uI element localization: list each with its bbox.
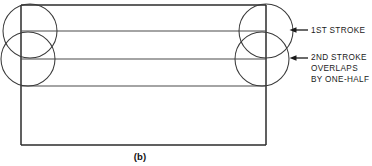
left-stroke-circles [1, 4, 57, 86]
left-arrow-icon-second-stroke [290, 55, 309, 61]
workpiece-rectangle [21, 5, 266, 145]
figure-container: 1ST STROKE 2ND STROKE OVERLAPS BY ONE-HA… [0, 0, 372, 166]
leader-arrows [290, 27, 309, 61]
stroke-overlap-diagram [0, 0, 372, 166]
right-stroke-circles [235, 4, 293, 86]
stroke-bead-lines [21, 31, 266, 86]
arrow-head-second [290, 55, 297, 61]
left-arrow-icon-first-stroke [290, 27, 309, 33]
